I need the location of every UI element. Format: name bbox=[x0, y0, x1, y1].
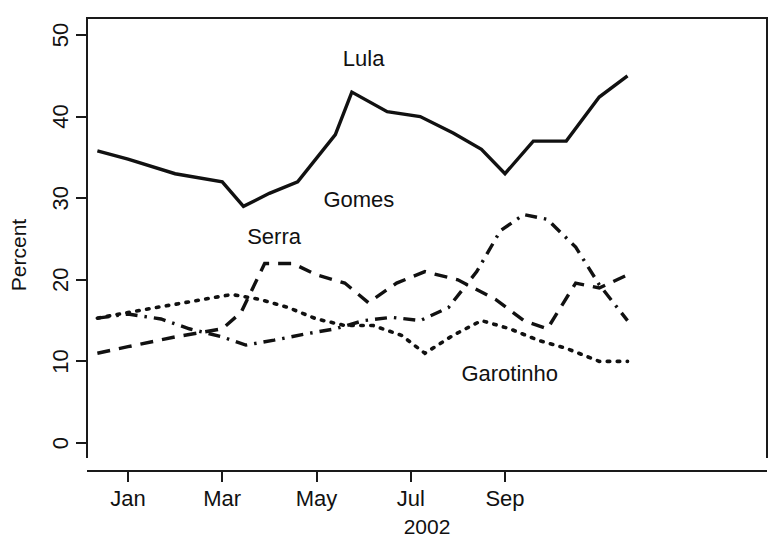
y-axis-title: Percent bbox=[7, 219, 30, 292]
series-label-serra: Serra bbox=[247, 224, 302, 249]
y-tick-label: 20 bbox=[48, 268, 73, 292]
y-tick-label: 50 bbox=[48, 23, 73, 47]
series-label-garotinho: Garotinho bbox=[461, 361, 558, 386]
series-label-gomes: Gomes bbox=[323, 187, 394, 212]
x-tick-label: Jul bbox=[397, 486, 425, 511]
x-tick-label: Mar bbox=[203, 486, 241, 511]
x-tick-label: Jan bbox=[110, 486, 145, 511]
series-label-lula: Lula bbox=[343, 46, 385, 71]
y-tick-label: 0 bbox=[48, 437, 73, 449]
y-tick-label: 10 bbox=[48, 349, 73, 373]
chart-background bbox=[0, 0, 781, 550]
x-tick-label: Sep bbox=[485, 486, 524, 511]
chart-container: 01020304050 JanMarMayJulSep LulaSerraGom… bbox=[0, 0, 781, 550]
line-chart: 01020304050 JanMarMayJulSep LulaSerraGom… bbox=[0, 0, 781, 550]
y-tick-label: 30 bbox=[48, 186, 73, 210]
y-tick-label: 40 bbox=[48, 104, 73, 128]
x-axis-title: 2002 bbox=[404, 515, 451, 538]
x-tick-label: May bbox=[296, 486, 338, 511]
